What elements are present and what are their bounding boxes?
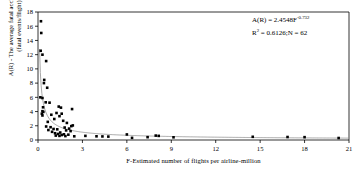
- y-tick-label: 10: [26, 65, 33, 72]
- fit-equation-annotation: A(R) = 2.4548F-0.732 R2 = 0.6126;N = 62: [252, 13, 309, 39]
- data-point: [53, 118, 56, 121]
- data-point: [49, 126, 52, 129]
- y-axis-tick-labels: 024681012141618: [26, 8, 33, 143]
- data-point: [84, 135, 87, 138]
- data-point: [40, 20, 43, 23]
- data-point: [58, 115, 61, 118]
- data-point: [57, 105, 60, 108]
- x-axis-title: F-Estimated number of flights per airlin…: [38, 157, 349, 164]
- y-tick-label: 14: [26, 37, 33, 44]
- fit-equation-line: A(R) = 2.4548F-0.732: [252, 13, 309, 26]
- x-tick-label: 18: [301, 145, 308, 152]
- x-tick-label: 3: [81, 145, 85, 152]
- data-point: [55, 112, 58, 115]
- data-point: [157, 135, 160, 138]
- fit-equation-text: A(R) = 2.4548F: [252, 16, 297, 24]
- x-axis-ticks: [38, 140, 349, 143]
- data-point: [60, 134, 63, 137]
- data-point: [48, 101, 51, 104]
- data-point: [95, 135, 98, 138]
- x-tick-label: 15: [257, 145, 264, 152]
- scatter-chart-figure: 024681012141618 036912151821 A(R) - The …: [0, 0, 361, 175]
- data-point: [67, 133, 70, 136]
- data-point: [54, 132, 57, 135]
- y-axis-title: A(R) - The average fatal accident rate (…: [7, 0, 23, 97]
- data-point: [56, 128, 59, 131]
- data-point: [60, 106, 63, 109]
- data-point: [41, 97, 44, 100]
- data-point: [43, 79, 46, 82]
- data-point: [41, 114, 44, 117]
- data-point: [46, 86, 49, 89]
- data-point: [172, 136, 175, 139]
- y-tick-label: 18: [26, 8, 33, 15]
- data-point: [126, 133, 129, 136]
- y-tick-label: 4: [30, 108, 34, 115]
- data-point: [63, 126, 66, 129]
- data-point: [70, 125, 73, 128]
- data-point: [52, 128, 55, 131]
- data-point: [251, 136, 254, 139]
- data-point: [46, 121, 49, 124]
- data-point: [69, 130, 72, 133]
- y-tick-label: 16: [26, 23, 33, 30]
- data-point: [286, 136, 289, 139]
- data-point: [47, 129, 50, 132]
- data-point: [131, 137, 134, 140]
- data-point: [60, 112, 63, 115]
- data-point: [62, 120, 65, 123]
- data-point: [39, 49, 42, 52]
- data-point: [71, 108, 74, 111]
- data-point: [51, 131, 54, 134]
- data-point: [101, 135, 104, 138]
- data-point: [45, 125, 48, 128]
- y-tick-label: 0: [30, 136, 34, 143]
- y-tick-label: 6: [30, 94, 34, 101]
- y-tick-label: 2: [30, 122, 33, 129]
- data-point: [45, 60, 48, 63]
- data-point: [154, 134, 157, 137]
- data-point: [303, 136, 306, 139]
- y-axis-title-line2: (fatal events/flight): [15, 0, 23, 97]
- x-tick-label: 9: [170, 145, 174, 152]
- data-point: [73, 135, 76, 138]
- x-tick-label: 6: [125, 145, 129, 152]
- data-point: [337, 137, 340, 140]
- y-tick-label: 8: [30, 79, 34, 86]
- data-point: [107, 135, 110, 138]
- x-tick-label: 0: [36, 145, 40, 152]
- data-point: [41, 53, 44, 56]
- data-point: [58, 135, 61, 138]
- data-point: [65, 129, 68, 132]
- data-point: [146, 136, 149, 139]
- fit-stats-line: R2 = 0.6126;N = 62: [252, 26, 309, 39]
- data-point: [59, 131, 62, 134]
- x-tick-label: 12: [212, 145, 219, 152]
- data-point: [50, 113, 53, 116]
- data-point: [42, 106, 45, 109]
- data-point: [68, 127, 71, 130]
- data-point: [43, 82, 46, 85]
- x-axis-tick-labels: 036912151821: [36, 145, 352, 152]
- fit-stats-text: = 0.6126;N = 62: [259, 29, 307, 37]
- fit-equation-exponent: -0.732: [297, 15, 309, 20]
- data-point: [64, 135, 67, 138]
- data-point: [40, 32, 43, 35]
- y-tick-label: 12: [26, 51, 33, 58]
- data-point: [54, 134, 57, 137]
- data-point: [44, 101, 47, 104]
- y-axis-ticks: [35, 12, 38, 140]
- data-point: [66, 122, 69, 125]
- x-tick-label: 21: [346, 145, 353, 152]
- power-fit-curve: [40, 49, 349, 138]
- y-axis-title-line1: A(R) - The average fatal accident rate: [7, 0, 14, 76]
